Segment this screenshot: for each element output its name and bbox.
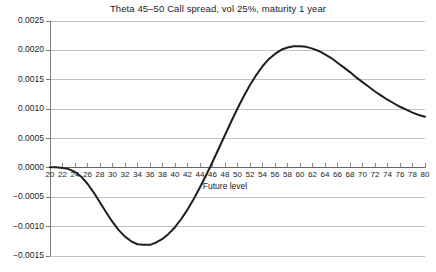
x-tick-label: 80 bbox=[421, 170, 430, 179]
plot-area bbox=[0, 0, 436, 272]
x-tick-label: 20 bbox=[46, 170, 55, 179]
x-tick-label: 66 bbox=[333, 170, 342, 179]
x-tick-label: 78 bbox=[408, 170, 417, 179]
x-axis-ticks bbox=[50, 163, 425, 168]
x-tick-label: 68 bbox=[346, 170, 355, 179]
x-tick-label: 36 bbox=[146, 170, 155, 179]
x-tick-label: 60 bbox=[296, 170, 305, 179]
x-tick-label: 58 bbox=[283, 170, 292, 179]
x-tick-label: 62 bbox=[308, 170, 317, 179]
y-tick-label: 0.0010 bbox=[0, 103, 44, 113]
x-tick-label: 26 bbox=[83, 170, 92, 179]
y-tick-label: 0.0025 bbox=[0, 15, 44, 25]
x-tick-label: 40 bbox=[171, 170, 180, 179]
gridlines bbox=[50, 21, 425, 256]
y-tick-label: 0.0000 bbox=[0, 162, 44, 172]
x-tick-label: 76 bbox=[396, 170, 405, 179]
x-tick-label: 44 bbox=[196, 170, 205, 179]
x-tick-label: 72 bbox=[371, 170, 380, 179]
x-tick-label: 54 bbox=[258, 170, 267, 179]
x-tick-label: 32 bbox=[121, 170, 130, 179]
y-tick-label: −0.0010 bbox=[0, 221, 44, 231]
x-tick-label: 24 bbox=[71, 170, 80, 179]
chart-container: Theta 45–50 Call spread, vol 25%, maturi… bbox=[0, 0, 436, 272]
x-tick-label: 22 bbox=[58, 170, 67, 179]
x-tick-label: 46 bbox=[208, 170, 217, 179]
x-tick-label: 34 bbox=[133, 170, 142, 179]
x-tick-label: 38 bbox=[158, 170, 167, 179]
series-line bbox=[50, 46, 425, 245]
y-tick-label: 0.0005 bbox=[0, 133, 44, 143]
x-tick-label: 74 bbox=[383, 170, 392, 179]
x-tick-label: 30 bbox=[108, 170, 117, 179]
y-tick-label: −0.0015 bbox=[0, 250, 44, 260]
x-tick-label: 28 bbox=[96, 170, 105, 179]
x-axis-title: Future level bbox=[203, 181, 247, 191]
y-tick-label: 0.0020 bbox=[0, 44, 44, 54]
y-tick-label: −0.0005 bbox=[0, 191, 44, 201]
y-axis-ticks bbox=[46, 21, 50, 256]
x-tick-label: 42 bbox=[183, 170, 192, 179]
y-tick-label: 0.0015 bbox=[0, 74, 44, 84]
x-tick-label: 50 bbox=[233, 170, 242, 179]
x-tick-label: 56 bbox=[271, 170, 280, 179]
x-tick-label: 64 bbox=[321, 170, 330, 179]
data-series bbox=[50, 46, 425, 245]
x-tick-label: 52 bbox=[246, 170, 255, 179]
x-tick-label: 70 bbox=[358, 170, 367, 179]
x-tick-label: 48 bbox=[221, 170, 230, 179]
